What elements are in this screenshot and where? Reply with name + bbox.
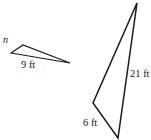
left-triangle-shape xyxy=(11,45,70,63)
geometry-figure: n 9 ft 6 ft 21 ft xyxy=(0,0,151,140)
label-unknown-side-n: n xyxy=(3,35,8,45)
label-left-triangle-base: 9 ft xyxy=(21,60,35,71)
label-right-triangle-side: 21 ft xyxy=(130,69,150,80)
label-right-triangle-base: 6 ft xyxy=(83,118,97,129)
